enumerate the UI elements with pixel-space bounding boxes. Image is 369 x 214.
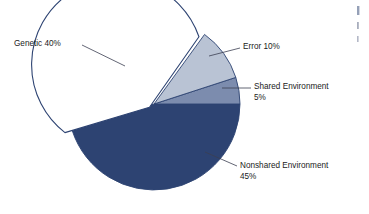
pie-label-error: Error 10%	[243, 42, 280, 51]
edge-fragment-mark-1	[357, 6, 359, 15]
edge-fragment-mark-3	[357, 36, 359, 42]
pie-chart-figure: Genetic 40% Error 10% Shared Environment…	[0, 0, 369, 214]
pie-label-nonshared-environment-value: 45%	[240, 172, 256, 181]
pie-chart-canvas: Genetic 40% Error 10% Shared Environment…	[0, 0, 369, 214]
pie-label-nonshared-environment: Nonshared Environment	[240, 161, 329, 170]
edge-fragment-mark-2	[357, 22, 359, 29]
pie-label-shared-environment: Shared Environment	[254, 82, 329, 91]
pie-label-shared-environment-value: 5%	[254, 93, 266, 102]
pie-label-genetic: Genetic 40%	[14, 39, 61, 48]
